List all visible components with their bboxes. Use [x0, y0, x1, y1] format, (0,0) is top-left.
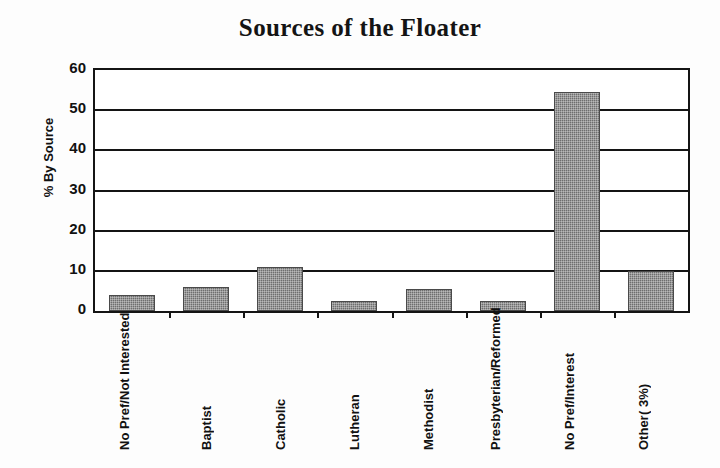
x-tick-label-line: Interest — [562, 353, 577, 400]
x-tick-label-line: Catholic — [273, 399, 288, 450]
x-tick-label-line: Methodist — [421, 389, 436, 450]
x-tick-label: Other( 3%) — [636, 318, 651, 450]
x-tick — [392, 311, 394, 318]
y-tick-label: 50 — [52, 99, 86, 116]
x-axis-tick-labels: No Pref/Not InterestedBaptistCatholicLut… — [93, 318, 690, 458]
y-axis-tick-labels: 6050403020100 — [52, 68, 88, 313]
bar — [628, 271, 674, 311]
bar-chart-figure: Sources of the Floater % By Source 60504… — [0, 0, 720, 468]
y-tick-label: 40 — [52, 139, 86, 156]
x-tick-label: No Pref/Not Interested — [117, 318, 132, 450]
x-tick-label-line: Not Interested — [117, 313, 132, 400]
y-tick-label: 60 — [52, 59, 86, 76]
x-tick — [243, 311, 245, 318]
x-tick-label: Baptist — [199, 318, 214, 450]
x-tick-label: No Pref/Interest — [562, 318, 577, 450]
bar — [331, 301, 377, 311]
y-tick-label: 0 — [52, 300, 86, 317]
x-tick — [540, 311, 542, 318]
x-tick — [466, 311, 468, 318]
x-tick — [317, 311, 319, 318]
bar — [554, 92, 600, 311]
x-tick — [614, 311, 616, 318]
x-tick-label-line: Baptist — [199, 406, 214, 450]
x-tick-label: Presbyterian/Reformed — [488, 318, 503, 450]
bars-layer — [95, 70, 688, 311]
x-tick-label-line: Lutheran — [347, 394, 362, 450]
bar — [109, 295, 155, 311]
x-tick-label-line: Other — [636, 415, 651, 450]
y-tick-label: 10 — [52, 260, 86, 277]
x-tick-label-line: Presbyterian/ — [488, 368, 503, 450]
x-tick-label-line: ( 3%) — [636, 384, 651, 415]
bar — [257, 267, 303, 311]
x-tick-label-line: No Pref/ — [562, 400, 577, 450]
x-tick-label: Methodist — [421, 318, 436, 450]
y-tick-label: 30 — [52, 180, 86, 197]
bar — [183, 287, 229, 311]
x-tick-label: Lutheran — [347, 318, 362, 450]
x-tick — [169, 311, 171, 318]
x-tick-label: Catholic — [273, 318, 288, 450]
x-tick-label-line: No Pref/ — [117, 400, 132, 450]
x-tick-label-line: Reformed — [488, 307, 503, 368]
bar — [406, 289, 452, 311]
y-tick-label: 20 — [52, 220, 86, 237]
chart-title: Sources of the Floater — [0, 14, 720, 42]
